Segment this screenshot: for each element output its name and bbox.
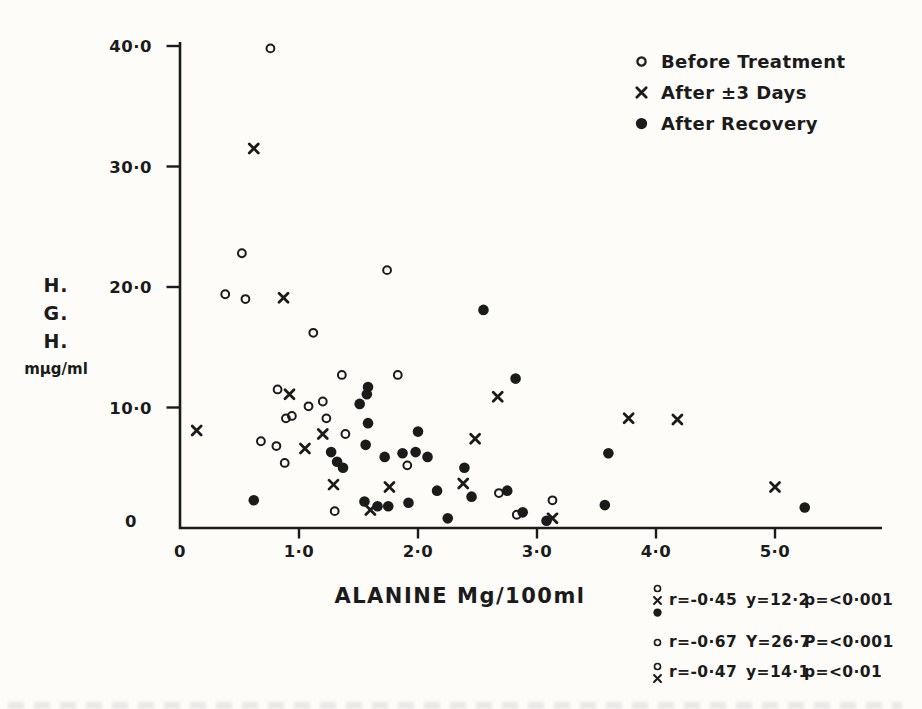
- x-glyph: [652, 673, 663, 684]
- stats-row: r=-0·47 y=14·1 p=<0·01: [648, 659, 882, 685]
- filled-circle-icon: [632, 116, 650, 131]
- point-before-treatment: [305, 402, 313, 410]
- point-after-3-days: [329, 480, 338, 489]
- point-after-3-days: [279, 293, 288, 302]
- legend-item: After Recovery: [632, 108, 845, 139]
- x-tick-label: 4·0: [641, 542, 672, 561]
- filled-circle-glyph: [652, 607, 663, 618]
- x-tick-label: 5·0: [760, 542, 791, 561]
- point-after-recovery: [354, 399, 365, 410]
- y-axis-label-line: H.: [24, 271, 88, 299]
- legend-item: Before Treatment: [632, 46, 845, 77]
- point-after-3-days: [673, 415, 682, 424]
- stats-marker-stack: [648, 637, 666, 648]
- point-after-recovery: [363, 418, 374, 429]
- point-after-3-days: [459, 479, 468, 488]
- point-after-recovery: [442, 513, 453, 524]
- x-mark-icon: [632, 85, 650, 100]
- y-axis-label: H. G. H. mμg/ml: [24, 271, 88, 383]
- point-before-treatment: [257, 437, 265, 445]
- x-tick-label: 0: [174, 542, 186, 561]
- point-before-treatment: [267, 45, 275, 53]
- point-after-recovery: [383, 501, 394, 512]
- y-axis-label-line: G.: [24, 299, 88, 327]
- point-after-recovery: [359, 496, 370, 507]
- stats-row: r=-0·67 Y=26·7 P=<0·001: [648, 631, 894, 653]
- point-after-recovery: [360, 440, 371, 451]
- point-before-treatment: [274, 386, 282, 394]
- point-after-recovery: [338, 462, 349, 473]
- point-after-recovery: [372, 501, 383, 512]
- point-after-recovery: [379, 452, 390, 463]
- point-before-treatment: [281, 459, 289, 467]
- point-after-3-days: [285, 390, 294, 399]
- point-after-recovery: [422, 452, 433, 463]
- x-glyph: [652, 595, 663, 606]
- x-tick-label: 2·0: [403, 542, 434, 561]
- point-after-recovery: [603, 448, 614, 459]
- point-after-recovery: [326, 447, 337, 458]
- point-before-treatment: [242, 295, 250, 303]
- y-tick-label: 10·0: [109, 399, 152, 418]
- point-after-3-days: [300, 444, 309, 453]
- point-after-recovery: [397, 448, 408, 459]
- stats-y-value: y=12·2: [746, 591, 804, 609]
- stats-r-value: r=-0·67: [669, 633, 746, 651]
- y-axis-label-line: H.: [24, 327, 88, 355]
- stats-marker-stack: [648, 661, 666, 684]
- point-before-treatment: [403, 461, 411, 469]
- legend-item-label: After ±3 Days: [661, 82, 807, 103]
- point-after-recovery: [403, 497, 414, 508]
- x-tick-label: 1·0: [284, 542, 315, 561]
- point-after-3-days: [318, 430, 327, 439]
- point-after-recovery: [432, 485, 443, 496]
- open-circle-glyph: [652, 583, 663, 594]
- point-after-recovery: [410, 447, 421, 458]
- point-after-recovery: [502, 485, 513, 496]
- point-after-3-days: [624, 414, 633, 423]
- y-axis-units: mμg/ml: [24, 355, 88, 383]
- legend-item-label: Before Treatment: [661, 51, 845, 72]
- point-after-recovery: [517, 507, 528, 518]
- point-after-recovery: [799, 502, 810, 513]
- cutoff-caption-artifact: [8, 702, 902, 709]
- stats-marker-stack: [648, 583, 666, 618]
- stats-row: r=-0·45 y=12·2 p=<0·001: [648, 581, 893, 619]
- x-tick-label: 3·0: [522, 542, 553, 561]
- legend-item: After ±3 Days: [632, 77, 845, 108]
- open-circle-glyph: [652, 661, 663, 672]
- legend-item-label: After Recovery: [661, 113, 818, 134]
- stats-p-value: P=<0·001: [804, 633, 894, 651]
- point-before-treatment: [331, 507, 339, 515]
- open-circle-glyph: [652, 637, 663, 648]
- point-before-treatment: [394, 371, 402, 379]
- point-after-recovery: [362, 389, 373, 400]
- point-before-treatment: [322, 414, 330, 422]
- point-after-3-days: [249, 144, 258, 153]
- point-after-3-days: [192, 426, 201, 435]
- point-after-recovery: [541, 515, 552, 526]
- y-tick-label: 30·0: [109, 158, 152, 177]
- scatter-figure: 40·030·020·010·0001·02·03·04·05·0 H. G. …: [0, 0, 922, 709]
- y-tick-label: 40·0: [109, 37, 152, 56]
- point-after-3-days: [493, 392, 502, 401]
- point-before-treatment: [309, 329, 317, 337]
- point-after-recovery: [459, 462, 470, 473]
- point-after-3-days: [771, 483, 780, 492]
- point-after-recovery: [466, 491, 477, 502]
- stats-r-value: r=-0·47: [669, 663, 746, 681]
- point-after-3-days: [385, 483, 394, 492]
- filled-circle-glyph: [634, 116, 649, 131]
- point-after-recovery: [413, 426, 424, 437]
- x-axis-label: ALANINE Mg/100ml: [330, 584, 590, 608]
- legend: Before Treatment After ±3 Days After Rec…: [632, 46, 845, 139]
- point-after-3-days: [471, 434, 480, 443]
- stats-y-value: y=14·1: [746, 663, 804, 681]
- point-after-recovery: [510, 373, 521, 384]
- y-tick-label: 20·0: [109, 278, 152, 297]
- open-circle-glyph: [634, 54, 649, 69]
- x-glyph: [634, 85, 649, 100]
- point-before-treatment: [342, 430, 350, 438]
- stats-p-value: p=<0·01: [804, 663, 882, 681]
- point-before-treatment: [221, 290, 229, 298]
